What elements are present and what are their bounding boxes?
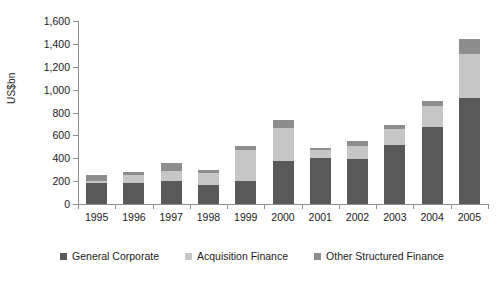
- bar-segment: [161, 171, 182, 181]
- y-tick-label: 400: [52, 152, 70, 164]
- x-tick-mark: [115, 204, 116, 209]
- bar-segment: [459, 54, 480, 99]
- bar-1999: [235, 146, 256, 204]
- x-tick-label: 1995: [85, 211, 108, 223]
- y-tick: 1,600: [78, 21, 79, 22]
- x-tick-label: 1999: [234, 211, 257, 223]
- x-tick-mark: [451, 204, 452, 209]
- bar-segment: [459, 39, 480, 53]
- legend-swatch-icon: [314, 253, 321, 260]
- bar-1995: [86, 175, 107, 204]
- legend-item: Acquisition Finance: [185, 250, 288, 262]
- x-tick-label: 1998: [197, 211, 220, 223]
- bar-segment: [310, 158, 331, 204]
- y-tick-mark: [73, 181, 78, 182]
- y-tick-label: 600: [52, 129, 70, 141]
- bar-segment: [422, 127, 443, 204]
- x-tick-label: 2004: [420, 211, 443, 223]
- bar-segment: [123, 175, 144, 184]
- bar-segment: [86, 183, 107, 204]
- y-tick-mark: [73, 21, 78, 22]
- y-tick: 400: [78, 158, 79, 159]
- bar-segment: [347, 159, 368, 204]
- bar-segment: [198, 173, 219, 185]
- legend-label: General Corporate: [72, 250, 159, 262]
- bar-segment: [235, 150, 256, 181]
- y-tick: 1,000: [78, 90, 79, 91]
- bar-segment: [310, 150, 331, 158]
- y-tick-mark: [73, 67, 78, 68]
- bar-1998: [198, 170, 219, 204]
- y-tick-label: 1,000: [44, 84, 70, 96]
- x-tick-label: 2003: [383, 211, 406, 223]
- x-tick-label: 2000: [271, 211, 294, 223]
- y-tick: 1,200: [78, 67, 79, 68]
- y-tick-mark: [73, 44, 78, 45]
- x-tick-mark: [339, 204, 340, 209]
- x-tick-mark: [78, 204, 79, 209]
- x-tick-mark: [376, 204, 377, 209]
- bar-2001: [310, 148, 331, 204]
- x-tick-mark: [413, 204, 414, 209]
- bar-2005: [459, 39, 480, 204]
- bar-2000: [273, 120, 294, 204]
- y-tick-mark: [73, 135, 78, 136]
- y-tick-label: 1,200: [44, 61, 70, 73]
- bar-2004: [422, 101, 443, 204]
- y-tick-mark: [73, 113, 78, 114]
- x-tick-mark: [153, 204, 154, 209]
- x-axis-line: [78, 204, 488, 205]
- bar-segment: [347, 146, 368, 159]
- bar-1997: [161, 163, 182, 204]
- bar-segment: [123, 183, 144, 204]
- bar-segment: [198, 185, 219, 204]
- bar-segment: [273, 120, 294, 128]
- legend-item: General Corporate: [60, 250, 159, 262]
- bar-segment: [161, 181, 182, 204]
- bar-2002: [347, 141, 368, 204]
- x-tick-label: 1996: [122, 211, 145, 223]
- x-tick-mark: [302, 204, 303, 209]
- x-tick-label: 1997: [159, 211, 182, 223]
- x-tick-mark: [488, 204, 489, 209]
- x-tick-label: 2005: [458, 211, 481, 223]
- legend-label: Other Structured Finance: [326, 250, 444, 262]
- y-tick-mark: [73, 90, 78, 91]
- x-tick-label: 2001: [309, 211, 332, 223]
- bar-segment: [273, 128, 294, 161]
- y-tick-mark: [73, 158, 78, 159]
- bar-segment: [273, 161, 294, 204]
- bar-segment: [422, 106, 443, 128]
- bar-segment: [384, 129, 405, 146]
- x-tick-mark: [227, 204, 228, 209]
- x-tick-label: 2002: [346, 211, 369, 223]
- bar-2003: [384, 125, 405, 204]
- bar-segment: [161, 163, 182, 171]
- legend-item: Other Structured Finance: [314, 250, 444, 262]
- bar-segment: [235, 181, 256, 204]
- bar-chart: US$bn 02004006008001,0001,2001,4001,600 …: [0, 0, 504, 287]
- y-tick-label: 800: [52, 107, 70, 119]
- x-tick-mark: [190, 204, 191, 209]
- y-tick: 1,400: [78, 44, 79, 45]
- bar-segment: [384, 145, 405, 204]
- y-tick-label: 1,400: [44, 38, 70, 50]
- legend-swatch-icon: [185, 253, 192, 260]
- y-tick: 200: [78, 181, 79, 182]
- y-tick-label: 0: [64, 198, 70, 210]
- legend-swatch-icon: [60, 253, 67, 260]
- plot-area: 02004006008001,0001,2001,4001,600 199519…: [78, 21, 488, 204]
- y-axis-title: US$bn: [6, 34, 20, 104]
- y-tick: 800: [78, 113, 79, 114]
- bar-1996: [123, 172, 144, 204]
- chart-legend: General CorporateAcquisition FinanceOthe…: [0, 250, 504, 262]
- y-tick-label: 200: [52, 175, 70, 187]
- x-tick-mark: [264, 204, 265, 209]
- y-tick-label: 1,600: [44, 15, 70, 27]
- legend-label: Acquisition Finance: [197, 250, 288, 262]
- y-tick: 600: [78, 135, 79, 136]
- bar-segment: [459, 98, 480, 204]
